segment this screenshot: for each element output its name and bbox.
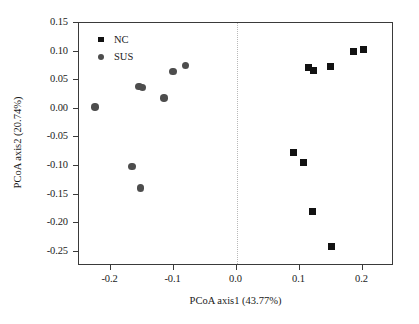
x-axis-title: PCoA axis1 (43.77%)	[78, 295, 393, 306]
data-point-sus	[160, 94, 168, 102]
legend-label-sus: SUS	[114, 51, 133, 62]
y-axis-title: PCoA axis2 (20.74%)	[12, 63, 23, 223]
legend-square-marker-icon	[93, 37, 109, 43]
y-axis-tick-label: -0.20	[22, 217, 68, 228]
x-axis-tick-label: -0.2	[87, 274, 133, 285]
data-point-sus	[182, 62, 190, 70]
data-point-sus	[137, 184, 145, 192]
data-point-sus	[169, 68, 177, 76]
data-point-sus	[139, 84, 147, 92]
legend-item-sus: SUS	[93, 48, 133, 65]
y-axis-tick-label: 0.15	[22, 17, 68, 28]
x-axis-tick-label: -0.1	[150, 274, 196, 285]
x-axis-tick-label: 0.1	[276, 274, 322, 285]
zero-vertical-reference-line	[237, 23, 238, 264]
x-axis-tick	[299, 265, 300, 270]
plot-frame: NC SUS	[78, 22, 393, 265]
data-point-nc	[360, 46, 367, 53]
data-point-nc	[310, 67, 317, 74]
data-point-nc	[290, 149, 297, 156]
x-axis-tick	[110, 265, 111, 270]
data-point-nc	[300, 159, 307, 166]
y-axis-tick-label: 0.05	[22, 74, 68, 85]
y-axis-tick-label: -0.15	[22, 189, 68, 200]
legend: NC SUS	[93, 31, 133, 65]
y-axis-tick-label: 0.00	[22, 103, 68, 114]
data-point-nc	[350, 48, 357, 55]
y-axis-tick-label: -0.25	[22, 246, 68, 257]
data-point-nc	[327, 63, 334, 70]
x-axis-tick-label: 0.2	[339, 274, 385, 285]
x-axis-tick	[173, 265, 174, 270]
legend-circle-marker-icon	[93, 54, 109, 60]
legend-item-nc: NC	[93, 31, 133, 48]
x-axis-tick-label: 0.0	[213, 274, 259, 285]
y-axis-tick-label: -0.05	[22, 131, 68, 142]
data-point-nc	[328, 243, 335, 250]
pcoa-scatter-figure: PCoA axis2 (20.74%) PCoA axis1 (43.77%) …	[0, 0, 419, 324]
data-point-nc	[309, 208, 316, 215]
data-point-sus	[91, 103, 99, 111]
y-axis-tick-label: 0.10	[22, 46, 68, 57]
x-axis-tick	[236, 265, 237, 270]
y-axis-tick-label: -0.10	[22, 160, 68, 171]
x-axis-tick	[362, 265, 363, 270]
legend-label-nc: NC	[114, 34, 129, 45]
data-point-sus	[128, 163, 136, 171]
